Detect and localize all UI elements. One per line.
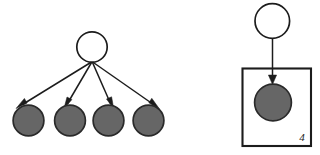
node-observed-repeated[interactable] bbox=[255, 84, 292, 121]
edge-line bbox=[68, 62, 92, 104]
plate-form-panel: 4 bbox=[243, 4, 312, 146]
node-observed-4[interactable] bbox=[133, 105, 164, 136]
diagram-canvas: 4 bbox=[0, 0, 320, 155]
node-observed-2[interactable] bbox=[55, 105, 86, 136]
plate-count-label: 4 bbox=[299, 131, 305, 143]
edge-parent-to-child2 bbox=[64, 62, 92, 109]
plate-notation-figure: 4 bbox=[0, 0, 320, 155]
node-observed-1[interactable] bbox=[13, 105, 44, 136]
node-parent-latent[interactable] bbox=[77, 32, 107, 62]
node-observed-3[interactable] bbox=[93, 105, 124, 136]
edge-parent-to-repeated bbox=[268, 39, 276, 85]
expanded-form-panel bbox=[13, 32, 164, 136]
arrowhead-icon bbox=[268, 75, 276, 85]
edge-line bbox=[23, 62, 92, 105]
node-parent-latent[interactable] bbox=[255, 4, 290, 39]
edge-parent-to-child1 bbox=[16, 62, 92, 109]
